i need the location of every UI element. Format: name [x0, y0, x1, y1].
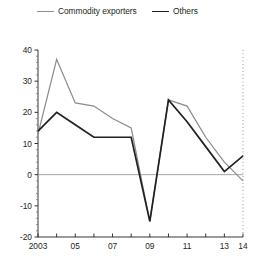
legend-item-others: Others — [152, 6, 198, 16]
series-line — [38, 59, 243, 221]
y-tick-label: -10 — [20, 201, 32, 211]
y-tick-label: 30 — [23, 76, 33, 86]
x-tick-label: 2003 — [29, 241, 48, 251]
y-axis — [35, 50, 39, 237]
x-tick-label: 14 — [238, 241, 248, 251]
data-series — [38, 59, 243, 221]
chart-container: Commodity exporters Others 403020100-10-… — [0, 0, 259, 265]
x-tick-label: 09 — [145, 241, 155, 251]
y-tick-label: 0 — [27, 170, 32, 180]
legend-label-commodity-exporters: Commodity exporters — [58, 6, 137, 16]
line-chart-svg: 403020100-10-20 2003050709111314 — [0, 40, 259, 265]
y-tick-labels: 403020100-10-20 — [20, 45, 32, 242]
legend-swatch-commodity-exporters — [37, 11, 54, 12]
legend-label-others: Others — [173, 6, 198, 16]
x-tick-label: 05 — [71, 241, 81, 251]
x-tick-label: 07 — [108, 241, 118, 251]
plot-area: 403020100-10-20 2003050709111314 — [0, 40, 259, 265]
x-tick-label: 11 — [183, 241, 192, 251]
legend-swatch-others — [152, 11, 169, 12]
x-tick-labels: 2003050709111314 — [29, 241, 248, 251]
x-tick-label: 13 — [220, 241, 230, 251]
x-axis — [38, 234, 243, 238]
legend-item-commodity-exporters: Commodity exporters — [37, 6, 137, 16]
chart-legend: Commodity exporters Others — [0, 6, 259, 24]
series-line — [38, 100, 243, 222]
y-tick-label: 10 — [23, 139, 33, 149]
y-tick-label: 40 — [23, 45, 33, 55]
y-tick-label: 20 — [23, 107, 33, 117]
